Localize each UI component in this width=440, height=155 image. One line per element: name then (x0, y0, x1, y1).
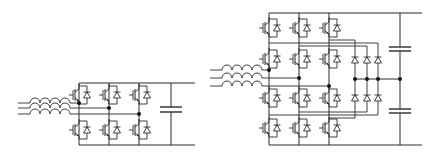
inductor-icon (210, 65, 269, 70)
capacitor-icon (160, 83, 182, 145)
inductor-icon (18, 98, 79, 103)
clamp-diode-icon (352, 53, 359, 67)
igbt-icon (69, 84, 91, 104)
right-npc-converter (210, 13, 422, 145)
converter-topology-diagram: two-level three-phase IGBT converter thr… (0, 0, 440, 155)
left-converter (18, 83, 195, 145)
